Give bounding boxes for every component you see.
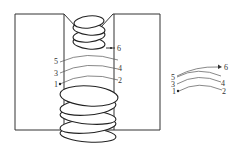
inset-arc-1-2 (179, 85, 222, 91)
arc-5-6 (60, 55, 118, 62)
arc-1-2 (60, 76, 118, 84)
arrow-head-icon (218, 65, 222, 70)
inset-label-4: 4 (221, 79, 225, 88)
inset-start-dot (177, 90, 179, 92)
weld-diagram: 1 2 3 4 5 6 1 2 3 4 5 6 (0, 0, 240, 145)
start-point-dot (59, 83, 61, 85)
right-plate-outline (101, 14, 160, 130)
label-1: 1 (54, 80, 58, 89)
label-4: 4 (118, 64, 122, 73)
inset-label-6: 6 (224, 63, 228, 72)
lower-bead-stack (59, 84, 118, 144)
arc-3-4 (60, 65, 118, 73)
label-3: 3 (54, 69, 58, 78)
inset-label-2: 2 (222, 87, 226, 96)
inset-label-5: 5 (171, 73, 175, 82)
label-5: 5 (54, 57, 58, 66)
path-inset: 1 2 3 4 5 6 (171, 63, 228, 96)
upper-bead-stack (72, 14, 105, 50)
weave-path-arcs (59, 47, 118, 85)
inset-arc-5-4 (177, 71, 221, 77)
point-6-dot (110, 47, 112, 49)
label-2: 2 (118, 76, 122, 85)
label-6: 6 (117, 44, 121, 53)
inset-arc-3-4 (177, 77, 221, 84)
